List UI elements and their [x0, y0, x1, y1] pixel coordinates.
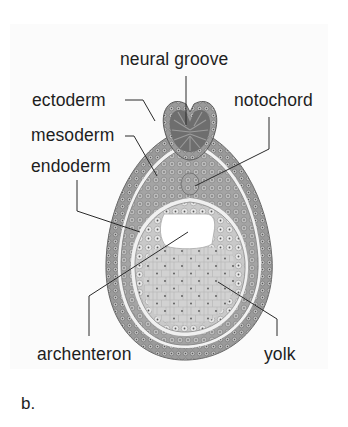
label-notochord: notochord: [234, 92, 313, 110]
panel-letter: b.: [21, 394, 35, 414]
archenteron-cavity: [160, 214, 214, 249]
label-archenteron: archenteron: [37, 346, 132, 364]
label-endoderm: endoderm: [31, 158, 111, 176]
notochord-structure: [181, 173, 199, 195]
label-neural-groove: neural groove: [120, 51, 228, 69]
label-ectoderm: ectoderm: [32, 92, 106, 110]
label-mesoderm: mesoderm: [31, 127, 114, 145]
label-yolk: yolk: [264, 346, 296, 364]
leader-ectoderm: [125, 100, 155, 121]
